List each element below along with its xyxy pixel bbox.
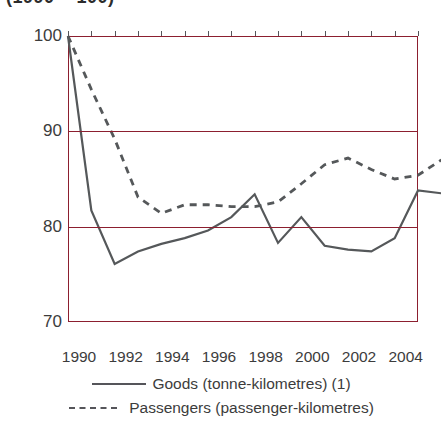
x-tick-1996 <box>208 31 209 36</box>
x-tick-2001 <box>325 31 326 36</box>
chart-legend: Goods (tonne-kilometres) (1) Passengers … <box>0 372 441 420</box>
y-axis-tick-label-80: 80 <box>4 217 62 237</box>
y-axis-tick-label-90: 90 <box>4 121 62 141</box>
series-passengers-group <box>68 36 441 213</box>
y-axis-tick-label-70: 70 <box>4 312 62 332</box>
series-goods-group <box>68 36 441 264</box>
gridline-y-90 <box>68 131 418 132</box>
x-tick-1990 <box>68 31 69 36</box>
x-tick-1993 <box>138 31 139 36</box>
legend-swatch-solid-line-icon <box>90 378 148 390</box>
x-tick-2003 <box>371 31 372 36</box>
y-axis-tick-label-100: 100 <box>4 26 62 46</box>
x-axis-tick-label-2004: 2004 <box>388 348 422 366</box>
legend-swatch-dashed-line-icon <box>67 402 125 414</box>
x-axis-tick-label-2000: 2000 <box>295 348 329 366</box>
x-tick-1994 <box>161 31 162 36</box>
x-tick-1995 <box>185 31 186 36</box>
x-tick-2004 <box>395 31 396 36</box>
series-line-passengers <box>68 36 441 213</box>
legend-label-goods: Goods (tonne-kilometres) (1) <box>152 375 350 393</box>
x-axis-tick-label-1996: 1996 <box>202 348 236 366</box>
gridline-y-80 <box>68 227 418 228</box>
x-tick-2005 <box>418 31 419 36</box>
x-tick-2000 <box>301 31 302 36</box>
series-line-goods <box>68 36 441 264</box>
x-tick-1997 <box>231 31 232 36</box>
x-tick-1999 <box>278 31 279 36</box>
x-axis-tick-label-1992: 1992 <box>108 348 142 366</box>
transport-index-chart: (1990 = 100) 708090100 19901992199419961… <box>0 0 441 421</box>
x-tick-1998 <box>255 31 256 36</box>
plot-series-svg <box>68 36 418 322</box>
x-tick-1991 <box>91 31 92 36</box>
legend-item-passengers: Passengers (passenger-kilometres) <box>0 396 441 420</box>
x-axis-labels: 19901992199419961998200020022004 <box>0 348 441 370</box>
x-axis-tick-label-1994: 1994 <box>155 348 189 366</box>
x-tick-1992 <box>115 31 116 36</box>
legend-item-goods: Goods (tonne-kilometres) (1) <box>0 372 441 396</box>
x-tick-2002 <box>348 31 349 36</box>
x-axis-tick-label-1990: 1990 <box>62 348 96 366</box>
plot-area <box>68 36 418 322</box>
x-axis-tick-label-1998: 1998 <box>248 348 282 366</box>
x-axis-tick-label-2002: 2002 <box>342 348 376 366</box>
legend-label-passengers: Passengers (passenger-kilometres) <box>129 399 374 417</box>
